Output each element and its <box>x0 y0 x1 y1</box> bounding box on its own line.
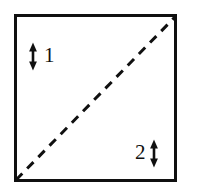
dimension-label-1: 1 <box>44 45 55 66</box>
figure-drawing-canvas <box>0 0 199 194</box>
figure-container: 1 2 <box>0 0 199 194</box>
dimension-label-2: 2 <box>135 142 146 163</box>
